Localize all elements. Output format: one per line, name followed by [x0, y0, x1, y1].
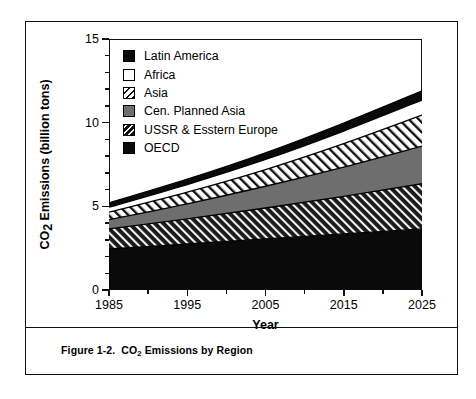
y-tick-major: [102, 122, 109, 124]
legend-swatch: [123, 69, 135, 81]
y-tick-minor: [105, 256, 110, 258]
y-tick-minor: [105, 55, 110, 57]
y-tick-label: 10: [85, 116, 99, 130]
legend-item: USSR & Esstern Europe: [123, 121, 278, 139]
y-tick-major: [102, 38, 109, 40]
y-tick-minor: [105, 273, 110, 275]
legend-swatch: [123, 105, 135, 117]
x-tick: [108, 290, 110, 296]
y-tick-minor: [105, 105, 110, 107]
y-tick-label: 5: [92, 199, 99, 213]
chart-region: CO2 Emissions (billion tons): [26, 22, 457, 329]
legend-label: Cen. Planned Asia: [144, 104, 245, 118]
legend-item: Latin America: [123, 47, 278, 65]
x-tick-minor: [147, 290, 149, 294]
y-tick-minor: [105, 72, 110, 74]
x-tick-label: 2005: [252, 298, 280, 312]
legend-label: Latin America: [144, 49, 219, 63]
y-tick-minor: [105, 239, 110, 241]
y-tick-minor: [105, 189, 110, 191]
x-tick-label: 1985: [95, 298, 123, 312]
x-tick-minor: [382, 290, 384, 294]
legend-item: Cen. Planned Asia: [123, 102, 278, 120]
chart-legend: Latin AmericaAfricaAsiaCen. Planned Asia…: [123, 47, 278, 157]
legend-item: OECD: [123, 139, 278, 157]
y-tick-minor: [105, 139, 110, 141]
x-tick: [421, 290, 423, 296]
legend-label: Africa: [144, 68, 175, 82]
x-tick: [265, 290, 267, 296]
y-tick-minor: [105, 155, 110, 157]
y-tick-label: 15: [85, 32, 99, 46]
x-tick-label: 2025: [408, 298, 436, 312]
y-axis-title-suffix: Emissions (billion tons): [38, 79, 52, 223]
y-tick-minor: [105, 172, 110, 174]
x-tick: [187, 290, 189, 296]
legend-item: Africa: [123, 65, 278, 83]
y-axis-title-prefix: CO: [38, 231, 52, 250]
legend-item: Asia: [123, 84, 278, 102]
y-tick-minor: [105, 222, 110, 224]
x-tick-minor: [226, 290, 228, 294]
x-tick-minor: [304, 290, 306, 294]
legend-label: Asia: [144, 86, 168, 100]
figure-caption: Figure 1-2. CO2 Emissions by Region: [43, 332, 253, 370]
legend-label: OECD: [144, 141, 180, 155]
caption-suffix: Emissions by Region: [142, 344, 253, 356]
legend-swatch: [123, 87, 135, 99]
caption-prefix: Figure 1-2. CO: [61, 344, 137, 356]
figure-container: CO2 Emissions (billion tons): [25, 21, 458, 375]
x-tick: [343, 290, 345, 296]
legend-swatch: [123, 142, 135, 154]
x-tick-label: 2015: [330, 298, 358, 312]
y-axis-title-subscript: 2: [41, 224, 55, 231]
plot-area: 051015 19851995200520152025 Latin Americ…: [109, 39, 422, 290]
y-tick-minor: [105, 88, 110, 90]
y-tick-major: [102, 206, 109, 208]
y-tick-label: 0: [92, 283, 99, 297]
x-tick-label: 1995: [173, 298, 201, 312]
legend-swatch: [123, 124, 135, 136]
y-axis-title: CO2 Emissions (billion tons): [36, 39, 56, 290]
legend-swatch: [123, 50, 135, 62]
legend-label: USSR & Esstern Europe: [144, 123, 278, 137]
figure-caption-strip: Figure 1-2. CO2 Emissions by Region: [26, 327, 457, 374]
